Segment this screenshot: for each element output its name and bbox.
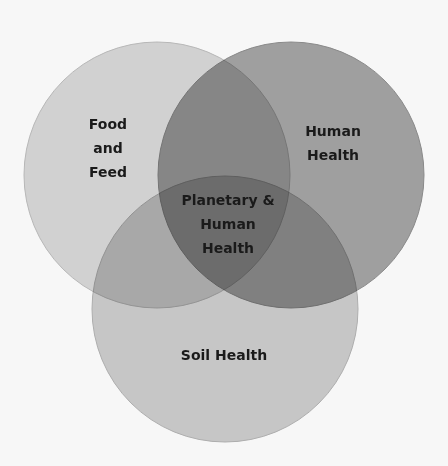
label-line: Human (305, 119, 361, 143)
label-line: Health (305, 143, 361, 167)
label-food-and-feed: Food and Feed (89, 112, 127, 184)
label-planetary-human-health: Planetary & Human Health (181, 188, 274, 260)
label-line: and (89, 136, 127, 160)
label-line: Human (181, 212, 274, 236)
venn-diagram: Food and Feed Human Health Soil Health P… (0, 0, 448, 466)
label-human-health: Human Health (305, 119, 361, 167)
label-line: Health (181, 236, 274, 260)
label-line: Soil Health (181, 343, 267, 367)
label-line: Food (89, 112, 127, 136)
label-line: Planetary & (181, 188, 274, 212)
label-line: Feed (89, 160, 127, 184)
label-soil-health: Soil Health (181, 343, 267, 367)
